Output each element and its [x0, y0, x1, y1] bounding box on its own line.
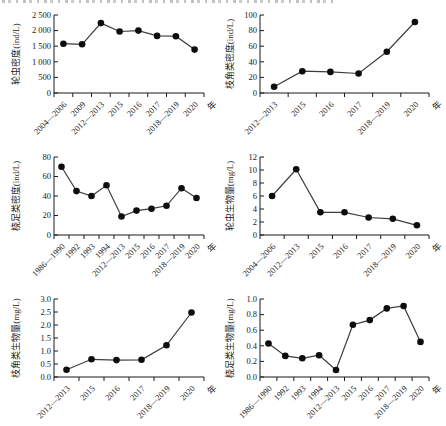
data-line — [269, 306, 421, 370]
data-point — [333, 367, 340, 374]
y-tick-label: 2 500 — [32, 10, 51, 20]
x-tick-label: 2016 — [331, 241, 350, 260]
data-point — [191, 46, 198, 53]
x-tick-label: 2015 — [78, 383, 97, 402]
data-point — [417, 339, 424, 346]
data-point — [173, 33, 180, 40]
data-point — [103, 182, 110, 189]
zooplankton-trend-figure: 05001 0001 5002 0002 5002004—20062009201… — [0, 0, 446, 426]
x-axis-unit: 年 — [429, 241, 443, 255]
y-tick-label: 1 500 — [32, 41, 51, 51]
y-tick-label: 100 — [244, 10, 257, 20]
data-point — [135, 27, 142, 34]
data-point — [163, 342, 170, 349]
data-point — [282, 353, 289, 360]
data-point — [412, 19, 419, 26]
data-point — [63, 366, 70, 373]
y-tick-label: 4 — [253, 204, 258, 214]
y-tick-label: 500 — [38, 72, 51, 82]
x-tick-label: 2020 — [181, 99, 200, 118]
y-axis-label: 轮虫生物量(mg/L) — [224, 161, 235, 232]
axes — [54, 15, 204, 93]
data-point — [148, 205, 155, 212]
x-tick-label: 2017 — [345, 99, 364, 118]
data-point — [400, 303, 407, 310]
y-axis-label: 桡足类生物量(mg/L) — [224, 298, 235, 378]
x-axis-unit: 年 — [204, 99, 218, 113]
y-tick-label: 60 — [249, 41, 258, 51]
data-point — [113, 357, 120, 364]
x-tick-label: 1993 — [289, 383, 308, 402]
y-tick-label: 80 — [43, 152, 52, 162]
data-point — [118, 213, 125, 220]
data-point — [384, 305, 391, 312]
axes — [260, 299, 429, 377]
y-tick-label: 0 — [47, 88, 51, 98]
y-tick-label: 0.8 — [246, 309, 257, 319]
y-tick-label: 0 — [253, 88, 257, 98]
x-tick-label: 2015 — [339, 383, 358, 402]
data-point — [116, 28, 123, 35]
y-axis-label: 桡足类密度(ind/L) — [10, 161, 21, 232]
data-point — [265, 340, 272, 347]
x-tick-label: 2012—2013 — [35, 383, 72, 420]
y-tick-label: 1 000 — [32, 57, 51, 67]
data-point — [316, 352, 323, 359]
data-point — [299, 68, 306, 75]
chart-cladocera-biomass: 0.00.51.01.52.02.53.02012—20132015201620… — [0, 284, 223, 426]
data-point — [60, 40, 67, 47]
x-axis-unit: 年 — [204, 241, 218, 255]
data-point — [367, 317, 374, 324]
x-tick-label: 2020 — [403, 241, 422, 260]
y-tick-label: 0.0 — [246, 372, 257, 382]
y-tick-label: 0 — [253, 230, 257, 240]
x-tick-label: 2016 — [356, 383, 375, 402]
data-point — [384, 48, 391, 55]
y-tick-label: 2.5 — [40, 307, 51, 317]
x-tick-label: 2016 — [125, 99, 144, 118]
y-tick-label: 40 — [249, 57, 258, 67]
data-point — [88, 193, 95, 200]
x-axis-unit: 年 — [429, 99, 443, 113]
x-tick-label: 2020 — [401, 99, 420, 118]
data-point — [58, 164, 65, 171]
data-point — [138, 357, 145, 364]
x-tick-label: 2020 — [183, 241, 202, 260]
x-tick-label: 2016 — [317, 99, 336, 118]
y-tick-label: 0.0 — [40, 372, 51, 382]
y-tick-label: 12 — [249, 152, 258, 162]
x-tick-label: 2015 — [106, 99, 125, 118]
x-axis-unit: 年 — [429, 383, 443, 397]
axes — [260, 15, 429, 93]
y-tick-label: 1.0 — [40, 346, 51, 356]
data-point — [178, 185, 185, 192]
data-point — [133, 207, 140, 214]
data-point — [317, 209, 324, 216]
data-point — [414, 222, 421, 229]
data-line — [67, 313, 192, 370]
data-point — [365, 214, 372, 221]
y-tick-label: 3.0 — [40, 294, 51, 304]
data-line — [62, 167, 197, 217]
x-tick-label: 2017 — [355, 241, 374, 260]
chart-copepod-biomass: 0.00.20.40.60.81.01986—19901992199319942… — [223, 284, 446, 426]
axes — [260, 157, 429, 235]
data-point — [98, 20, 105, 27]
y-tick-label: 40 — [43, 191, 52, 201]
y-tick-label: 8 — [253, 178, 257, 188]
x-axis-unit: 年 — [204, 383, 218, 397]
data-point — [193, 195, 200, 202]
data-point — [350, 321, 357, 328]
data-point — [341, 209, 348, 216]
y-tick-label: 20 — [43, 210, 52, 220]
x-tick-label: 2017 — [128, 383, 147, 402]
y-tick-label: 6 — [253, 191, 257, 201]
x-tick-label: 2020 — [178, 383, 197, 402]
chart-copepod-density: 0204060801986—19901992199319942012—20132… — [0, 142, 223, 284]
data-point — [88, 356, 95, 363]
y-tick-label: 80 — [249, 25, 258, 35]
data-point — [269, 193, 276, 200]
x-tick-label: 2020 — [407, 383, 426, 402]
data-point — [355, 70, 362, 77]
data-point — [163, 203, 170, 210]
